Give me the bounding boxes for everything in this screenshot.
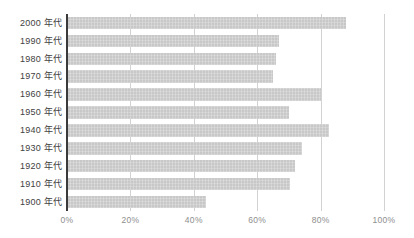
category-label: 1920 年代 — [0, 160, 62, 173]
x-tick-label: 80% — [299, 215, 343, 225]
bar-1910年代 — [67, 178, 290, 191]
decades-bar-chart: 2000 年代1990 年代1980 年代1970 年代1960 年代1950 … — [0, 0, 414, 238]
category-label: 1970 年代 — [0, 70, 62, 83]
gridline-100 — [384, 14, 385, 211]
x-tick-label: 20% — [108, 215, 152, 225]
gridline-80 — [321, 14, 322, 211]
x-tick-label: 60% — [235, 215, 279, 225]
category-label: 1950 年代 — [0, 106, 62, 119]
category-label: 1980 年代 — [0, 53, 62, 66]
category-label: 2000 年代 — [0, 17, 62, 30]
bar-1950年代 — [67, 106, 289, 119]
y-axis-line — [66, 14, 68, 211]
category-label: 1940 年代 — [0, 124, 62, 137]
plot-area — [67, 14, 384, 211]
bar-1930年代 — [67, 142, 302, 155]
x-tick-label: 40% — [172, 215, 216, 225]
bar-1960年代 — [67, 88, 321, 101]
bar-1900年代 — [67, 196, 206, 209]
bar-1990年代 — [67, 35, 279, 48]
category-label: 1990 年代 — [0, 35, 62, 48]
bar-1940年代 — [67, 124, 329, 137]
category-label: 1910 年代 — [0, 178, 62, 191]
x-tick-label: 100% — [362, 215, 406, 225]
x-tick-label: 0% — [45, 215, 89, 225]
bar-1980年代 — [67, 53, 276, 66]
bar-1970年代 — [67, 70, 273, 83]
bar-1920年代 — [67, 160, 295, 173]
category-label: 1900 年代 — [0, 196, 62, 209]
category-label: 1930 年代 — [0, 142, 62, 155]
category-label: 1960 年代 — [0, 88, 62, 101]
bar-2000年代 — [67, 17, 346, 30]
